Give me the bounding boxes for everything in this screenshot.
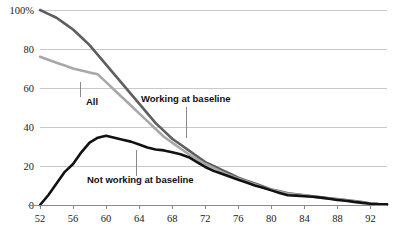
- y-axis-tick-label: 80: [24, 44, 35, 55]
- annotation-label: Not working at baseline: [87, 174, 194, 185]
- y-axis-tick-label: 40: [24, 122, 35, 133]
- y-axis-tick-labels: 020406080100%: [10, 5, 35, 211]
- x-axis-tick-label: 60: [101, 213, 112, 224]
- x-axis-tick-label: 68: [167, 213, 178, 224]
- x-axis-tick-label: 92: [365, 213, 376, 224]
- x-axis-tick-label: 52: [35, 213, 46, 224]
- series-line: [40, 136, 387, 205]
- line-chart: 020406080100% 5256606468727680848892 All…: [0, 0, 399, 231]
- y-axis-tick-label: 20: [24, 161, 35, 172]
- y-axis-tick-label: 60: [24, 83, 35, 94]
- x-axis-tick-label: 88: [332, 213, 343, 224]
- x-axis-tick-labels: 5256606468727680848892: [35, 213, 376, 224]
- x-axis-tick-label: 64: [134, 213, 145, 224]
- y-axis-tick-label: 100%: [10, 5, 35, 16]
- chart-container: 020406080100% 5256606468727680848892 All…: [0, 0, 399, 231]
- x-axis-tick-label: 80: [266, 213, 277, 224]
- x-axis-tick-label: 56: [68, 213, 79, 224]
- annotation-label: All: [86, 96, 98, 107]
- x-axis-tick-label: 84: [299, 213, 310, 224]
- gridlines: [40, 11, 387, 167]
- annotation-label: Working at baseline: [141, 93, 231, 104]
- x-axis-tick-label: 76: [233, 213, 244, 224]
- x-axis-tick-label: 72: [200, 213, 211, 224]
